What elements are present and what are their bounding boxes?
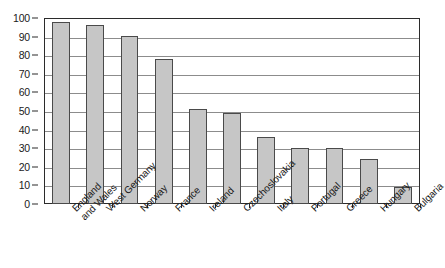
y-tick-mark — [32, 185, 38, 186]
x-tick-label: West Germany — [104, 206, 112, 214]
x-tick-label-line: and Wales — [78, 214, 86, 222]
bar — [52, 22, 70, 204]
x-tick-label: Greece — [344, 206, 352, 214]
y-tick-label: 30 — [19, 142, 30, 154]
x-tick-label: Ireland — [207, 206, 215, 214]
y-tick-label: 50 — [19, 105, 30, 117]
y-tick-mark — [32, 111, 38, 112]
y-tick-mark — [32, 36, 38, 37]
x-axis-labels: Englandand WalesWest GermanyNorwayFrance… — [44, 206, 420, 268]
bar — [155, 59, 173, 204]
x-tick-label: Italy — [275, 206, 283, 214]
x-tick-label: Norway — [138, 206, 146, 214]
y-tick-label: 90 — [19, 31, 30, 43]
x-tick-label: Englandand Wales — [70, 206, 86, 222]
y-tick-label: 60 — [19, 86, 30, 98]
x-tick-label: France — [173, 206, 181, 214]
y-tick-mark — [32, 55, 38, 56]
bar — [86, 25, 104, 204]
y-tick-mark — [32, 129, 38, 130]
y-tick-mark — [32, 204, 38, 205]
y-tick-label: 20 — [19, 161, 30, 173]
y-tick-mark — [32, 166, 38, 167]
x-tick-label: Czechoslovakia — [241, 206, 249, 214]
x-tick-label: Bulgaria — [412, 206, 420, 214]
y-tick-label: 80 — [19, 49, 30, 61]
y-tick-mark — [32, 148, 38, 149]
x-tick-label: Portugal — [309, 206, 317, 214]
x-tick-label: Hungary — [378, 206, 386, 214]
y-tick-label: 0 — [24, 198, 30, 210]
y-axis: 0102030405060708090100 — [0, 18, 40, 204]
bar — [291, 148, 309, 204]
y-tick-mark — [32, 73, 38, 74]
bars-layer — [44, 18, 420, 204]
y-tick-label: 100 — [13, 12, 30, 24]
y-tick-label: 10 — [19, 179, 30, 191]
y-tick-label: 70 — [19, 68, 30, 80]
y-tick-mark — [32, 92, 38, 93]
y-tick-mark — [32, 18, 38, 19]
y-tick-label: 40 — [19, 124, 30, 136]
